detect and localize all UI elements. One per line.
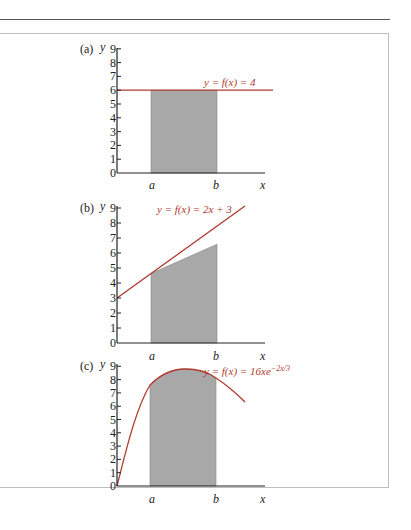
x-tick-b-b: b <box>213 349 219 363</box>
svg-text:7: 7 <box>110 69 116 83</box>
svg-text:8: 8 <box>110 56 116 70</box>
panel-b: 01 23 45 67 89 (b) y a b x y = f(x) = 2x… <box>80 199 266 363</box>
panel-label-b: (b) <box>80 201 94 215</box>
svg-text:5: 5 <box>110 97 116 111</box>
svg-text:4: 4 <box>110 111 116 125</box>
svg-text:1: 1 <box>110 321 116 335</box>
y-axis-label-b: y <box>99 199 106 213</box>
svg-text:3: 3 <box>110 125 116 139</box>
svg-text:3: 3 <box>110 439 116 453</box>
x-tick-a-b: a <box>149 349 155 363</box>
svg-text:9: 9 <box>110 201 116 215</box>
svg-text:2: 2 <box>110 138 116 152</box>
panel-a: 01 23 45 67 89 (a) y a b x y = f(x) = 4 <box>80 40 273 192</box>
svg-text:3: 3 <box>110 291 116 305</box>
y-tick-labels-c: 01 23 45 67 89 <box>110 359 116 493</box>
x-tick-b-a: b <box>213 178 219 192</box>
svg-text:8: 8 <box>110 216 116 230</box>
function-label-a: y = f(x) = 4 <box>203 76 256 89</box>
svg-text:2: 2 <box>110 306 116 320</box>
y-axis-label-a: y <box>99 40 106 54</box>
svg-text:4: 4 <box>110 276 116 290</box>
svg-text:5: 5 <box>110 261 116 275</box>
svg-text:2: 2 <box>110 452 116 466</box>
x-axis-label-a: x <box>259 178 266 192</box>
panel-c: 01 23 45 67 89 (c) y a b x y = f(x) = 16… <box>80 357 290 506</box>
svg-text:1: 1 <box>110 466 116 480</box>
svg-text:0: 0 <box>110 479 116 493</box>
svg-text:4: 4 <box>110 426 116 440</box>
svg-text:5: 5 <box>110 413 116 427</box>
svg-text:0: 0 <box>110 336 116 350</box>
shaded-area-b <box>151 244 217 343</box>
y-tick-labels-a: 01 23 45 67 89 <box>110 42 116 180</box>
x-tick-b-c: b <box>213 492 219 506</box>
x-axis-label-b: x <box>259 349 266 363</box>
svg-text:9: 9 <box>110 42 116 56</box>
svg-text:6: 6 <box>110 83 116 97</box>
figure-svg: 01 23 45 67 89 (a) y a b x y = f(x) = 4 … <box>0 0 411 530</box>
shaded-area-a <box>151 90 217 173</box>
svg-text:6: 6 <box>110 399 116 413</box>
y-axis-label-c: y <box>99 357 106 371</box>
y-tick-labels-b: 01 23 45 67 89 <box>110 201 116 350</box>
panel-label-a: (a) <box>80 42 93 56</box>
svg-text:1: 1 <box>110 152 116 166</box>
function-label-b: y = f(x) = 2x + 3 <box>156 203 232 216</box>
x-tick-a-a: a <box>149 178 155 192</box>
svg-text:7: 7 <box>110 386 116 400</box>
shaded-area-c <box>150 369 216 486</box>
x-axis-label-c: x <box>259 492 266 506</box>
svg-text:6: 6 <box>110 246 116 260</box>
svg-text:0: 0 <box>110 166 116 180</box>
x-tick-a-c: a <box>149 492 155 506</box>
svg-text:8: 8 <box>110 373 116 387</box>
function-label-c: y = f(x) = 16xe−2x/3 <box>203 364 290 378</box>
svg-text:7: 7 <box>110 231 116 245</box>
panel-label-c: (c) <box>80 359 93 373</box>
svg-text:9: 9 <box>110 359 116 373</box>
